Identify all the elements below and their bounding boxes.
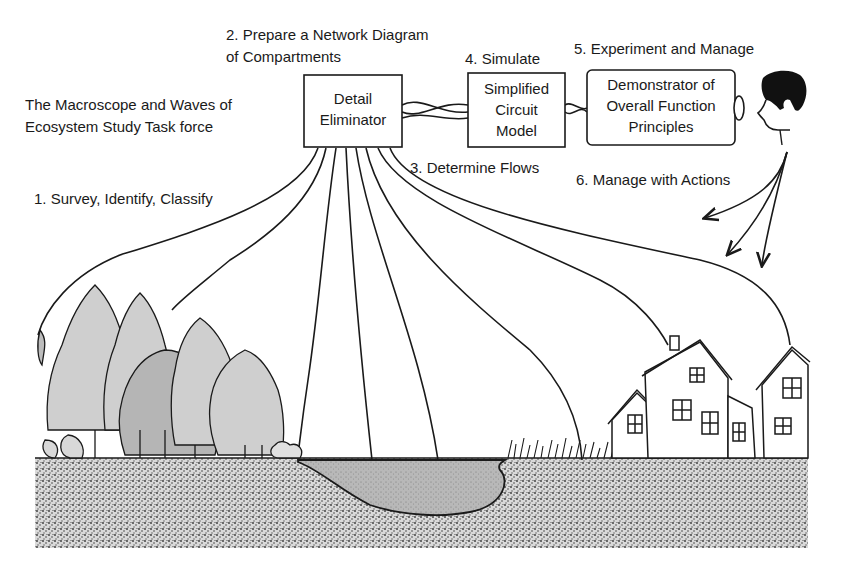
demonstrator-text: Demonstrator of Overall Function Princip… [587, 74, 735, 137]
box-line: Detail [304, 88, 402, 109]
step-4-label: 4. Simulate [465, 48, 540, 70]
person-head-icon [758, 71, 806, 145]
box-line: Demonstrator of [587, 74, 735, 95]
box-line: Simplified [468, 78, 565, 99]
step-2-line-1: 2. Prepare a Network Diagram [226, 24, 429, 46]
title-line-2: Ecosystem Study Task force [25, 116, 232, 138]
diagram-title: The Macroscope and Waves of Ecosystem St… [25, 94, 232, 138]
box-line: Principles [587, 116, 735, 137]
detail-eliminator-text: Detail Eliminator [304, 88, 402, 130]
title-line-1: The Macroscope and Waves of [25, 94, 232, 116]
step-1-label: 1. Survey, Identify, Classify [34, 188, 213, 210]
step-2-label: 2. Prepare a Network Diagram of Compartm… [226, 24, 429, 68]
box-line: Overall Function [587, 95, 735, 116]
step-5-label: 5. Experiment and Manage [574, 38, 754, 60]
box-line: Model [468, 120, 565, 141]
box-line: Circuit [468, 99, 565, 120]
houses [608, 336, 810, 458]
step-6-label: 6. Manage with Actions [576, 169, 730, 191]
circuit-model-text: Simplified Circuit Model [468, 78, 565, 141]
step-3-label: 3. Determine Flows [410, 157, 539, 179]
forest [38, 285, 302, 458]
box-line: Eliminator [304, 109, 402, 130]
demonstrator-knob [734, 96, 744, 120]
step-2-line-2: of Compartments [226, 46, 429, 68]
